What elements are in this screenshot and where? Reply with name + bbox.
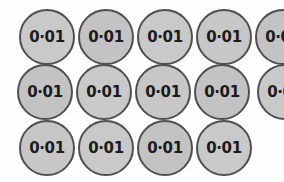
coin-value-label: 0·01: [145, 85, 180, 100]
coin[interactable]: 0·01: [17, 64, 73, 120]
coin[interactable]: 0·01: [135, 64, 191, 120]
coin-value-label: 0·01: [267, 85, 284, 100]
coin[interactable]: 0·01: [78, 9, 134, 65]
coin-value-label: 0·01: [27, 85, 62, 100]
coin[interactable]: 0·01: [194, 64, 250, 120]
coin-value-label: 0·01: [206, 30, 241, 45]
coin-row: 0·01 0·01 0·01 0·01 0·01: [17, 64, 284, 120]
coin-value-label: 0·01: [147, 30, 182, 45]
coin[interactable]: 0·01: [137, 9, 193, 65]
coin-value-label: 0·01: [265, 30, 284, 45]
coin-array-diagram: 0·01 0·01 0·01 0·01 0·01 0·01 0·01 0·01 …: [0, 0, 284, 182]
coin-row: 0·01 0·01 0·01 0·01 0·01: [19, 9, 284, 65]
coin-value-label: 0·01: [29, 30, 64, 45]
coin-value-label: 0·01: [86, 85, 121, 100]
coin[interactable]: 0·01: [19, 120, 75, 176]
coin[interactable]: 0·01: [257, 64, 284, 120]
coin[interactable]: 0·01: [255, 9, 284, 65]
coin[interactable]: 0·01: [78, 120, 134, 176]
coin-value-label: 0·01: [88, 141, 123, 156]
coin[interactable]: 0·01: [196, 9, 252, 65]
coin-value-label: 0·01: [206, 141, 241, 156]
coin-value-label: 0·01: [88, 30, 123, 45]
coin[interactable]: 0·01: [196, 120, 252, 176]
coin[interactable]: 0·01: [19, 9, 75, 65]
coin-value-label: 0·01: [29, 141, 64, 156]
coin-value-label: 0·01: [147, 141, 182, 156]
coin-value-label: 0·01: [204, 85, 239, 100]
coin-row: 0·01 0·01 0·01 0·01: [19, 120, 255, 176]
coin[interactable]: 0·01: [137, 120, 193, 176]
coin[interactable]: 0·01: [76, 64, 132, 120]
